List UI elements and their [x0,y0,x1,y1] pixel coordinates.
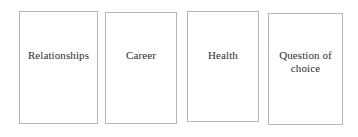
card-question-of-choice[interactable]: Question of choice [268,13,343,125]
card-career[interactable]: Career [105,12,177,124]
card-relationships[interactable]: Relationships [19,11,98,124]
card-label: Question of choice [269,14,342,74]
card-label: Health [188,12,258,62]
card-label: Relationships [20,12,97,62]
card-row-diagram: Relationships Career Health Question of … [0,0,358,137]
card-label: Career [106,13,176,62]
card-health[interactable]: Health [187,11,259,122]
